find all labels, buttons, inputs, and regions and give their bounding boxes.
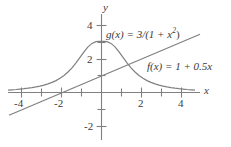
plot-canvas bbox=[0, 0, 231, 147]
f-line bbox=[9, 34, 200, 115]
y-tick-label-4: 4 bbox=[87, 20, 93, 31]
y-tick-label-neg2: -2 bbox=[84, 121, 93, 132]
x-tick-label-neg4: -4 bbox=[14, 98, 23, 109]
f-line-label: f(x) = 1 + 0.5x bbox=[147, 61, 212, 72]
x-tick-label-2: 2 bbox=[138, 98, 144, 109]
x-tick-label-neg2: -2 bbox=[54, 98, 63, 109]
g-label-tail: ) bbox=[176, 28, 180, 40]
x-tick-label-4: 4 bbox=[178, 98, 184, 109]
y-tick-label-2: 2 bbox=[87, 54, 93, 65]
function-graph-figure: y x -4 -2 2 4 4 2 -2 g(x) = 3/(1 + x2) f… bbox=[0, 0, 231, 147]
g-label-main: g(x) = 3/(1 + x bbox=[106, 28, 172, 40]
y-axis-label: y bbox=[103, 2, 108, 13]
x-axis-label: x bbox=[204, 85, 209, 96]
g-curve-label: g(x) = 3/(1 + x2) bbox=[106, 29, 180, 40]
